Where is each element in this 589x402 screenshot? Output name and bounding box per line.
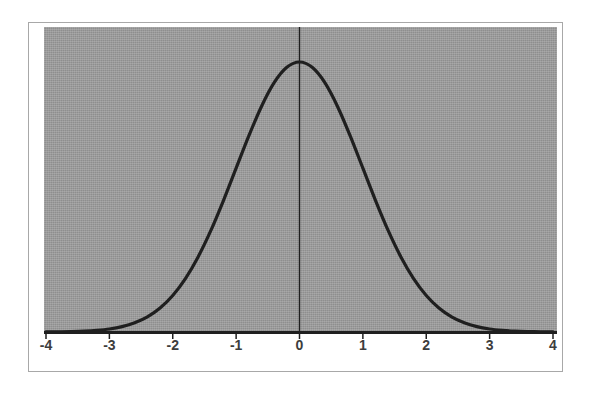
- x-axis-tick-label-4: 4: [533, 336, 573, 354]
- x-axis-tick-label-2: 2: [406, 336, 446, 354]
- x-axis-tick-label-neg1: -1: [216, 336, 256, 354]
- x-axis-tick-label-neg3: -3: [89, 336, 129, 354]
- x-axis-tick-label-3: 3: [470, 336, 510, 354]
- x-axis-tick-label-0: 0: [280, 336, 320, 354]
- x-axis-tick-label-neg2: -2: [153, 336, 193, 354]
- x-axis-tick-label-neg4: -4: [26, 336, 66, 354]
- figure-canvas: -4-3-2-101234: [0, 0, 589, 402]
- x-axis-tick-label-1: 1: [343, 336, 383, 354]
